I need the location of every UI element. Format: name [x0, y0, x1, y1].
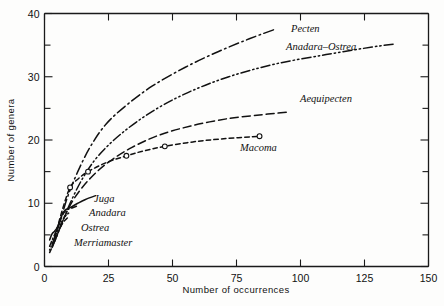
- x-tick-label: 100: [292, 272, 310, 284]
- figure-container: 0255075100125150010203040 PectenAnadara–…: [0, 0, 444, 306]
- data-curves-group: [50, 29, 396, 252]
- curve-label-macoma: Macoma: [239, 142, 277, 153]
- data-point-marker: [257, 134, 262, 139]
- data-markers-group: [68, 134, 262, 190]
- curve-label-merriamaster: Merriamaster: [73, 237, 133, 248]
- curve-label-aequipecten: Aequipecten: [299, 93, 352, 104]
- x-tick-label: 125: [356, 272, 374, 284]
- curve-label-anadara-ostrea: Anadara–Ostrea: [285, 41, 356, 52]
- curve-label-anadara: Anadara: [88, 207, 126, 218]
- curve-label-pecten: Pecten: [290, 23, 320, 34]
- y-axis-title: Number of genera: [5, 98, 16, 181]
- x-axis-title: Number of occurrences: [182, 284, 289, 295]
- data-point-marker: [86, 169, 91, 174]
- x-tick-label: 0: [42, 272, 48, 284]
- x-tick-label: 25: [103, 272, 115, 284]
- curve-label-juga: Juga: [94, 193, 114, 204]
- data-point-marker: [124, 153, 129, 158]
- x-tick-label: 75: [231, 272, 243, 284]
- y-tick-label: 10: [28, 197, 40, 209]
- x-tick-label: 150: [420, 272, 438, 284]
- curve-label-ostrea: Ostrea: [81, 222, 109, 233]
- y-tick-label: 30: [28, 71, 40, 83]
- x-tick-label: 50: [167, 272, 179, 284]
- data-point-marker: [68, 185, 73, 190]
- y-tick-label: 20: [28, 134, 40, 146]
- chart-canvas: 0255075100125150010203040 PectenAnadara–…: [0, 0, 444, 306]
- y-tick-label: 0: [34, 261, 40, 273]
- data-point-marker: [162, 144, 167, 149]
- y-tick-label: 40: [28, 8, 40, 20]
